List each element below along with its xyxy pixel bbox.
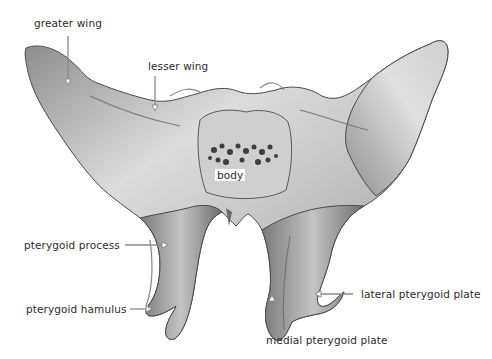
label-lesser-wing: lesser wing	[148, 60, 208, 72]
label-body: body	[215, 169, 245, 181]
label-pterygoid-process: pterygoid process	[24, 239, 120, 251]
label-lateral-pterygoid-plate: lateral pterygoid plate	[361, 288, 481, 300]
label-pterygoid-hamulus: pterygoid hamulus	[26, 303, 127, 315]
sphenoid-diagram: greater wing lesser wing body pterygoid …	[0, 0, 492, 359]
label-medial-pterygoid-plate: medial pterygoid plate	[266, 334, 388, 346]
label-greater-wing: greater wing	[34, 17, 102, 29]
